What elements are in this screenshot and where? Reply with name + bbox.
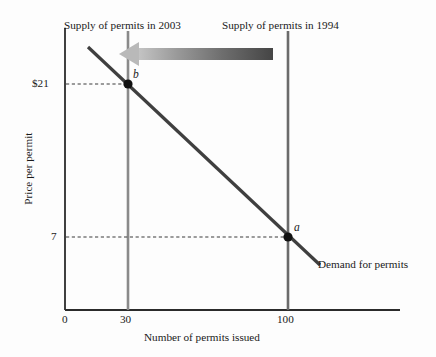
point-b-marker (123, 79, 132, 88)
y-axis-tick-21: $21 (32, 78, 49, 89)
demand-curve (88, 47, 320, 265)
point-b-label: b (133, 69, 139, 81)
x-axis-tick-0: 0 (62, 314, 68, 325)
demand-curve-label: Demand for permits (318, 259, 408, 270)
y-axis-title: Price per permit (23, 121, 34, 217)
x-axis-title: Number of permits issued (144, 332, 260, 343)
supply-shift-arrow (119, 42, 273, 66)
permit-market-chart (0, 0, 436, 357)
point-a-label: a (294, 222, 300, 234)
economics-figure: Supply of permits in 2003 Supply of perm… (0, 0, 436, 357)
x-axis-tick-30: 30 (120, 314, 131, 325)
x-axis-tick-100: 100 (277, 314, 294, 325)
point-a-marker (283, 232, 292, 241)
y-axis-tick-7: 7 (51, 231, 57, 242)
supply-2003-label: Supply of permits in 2003 (64, 20, 181, 31)
supply-1994-label: Supply of permits in 1994 (222, 20, 339, 31)
